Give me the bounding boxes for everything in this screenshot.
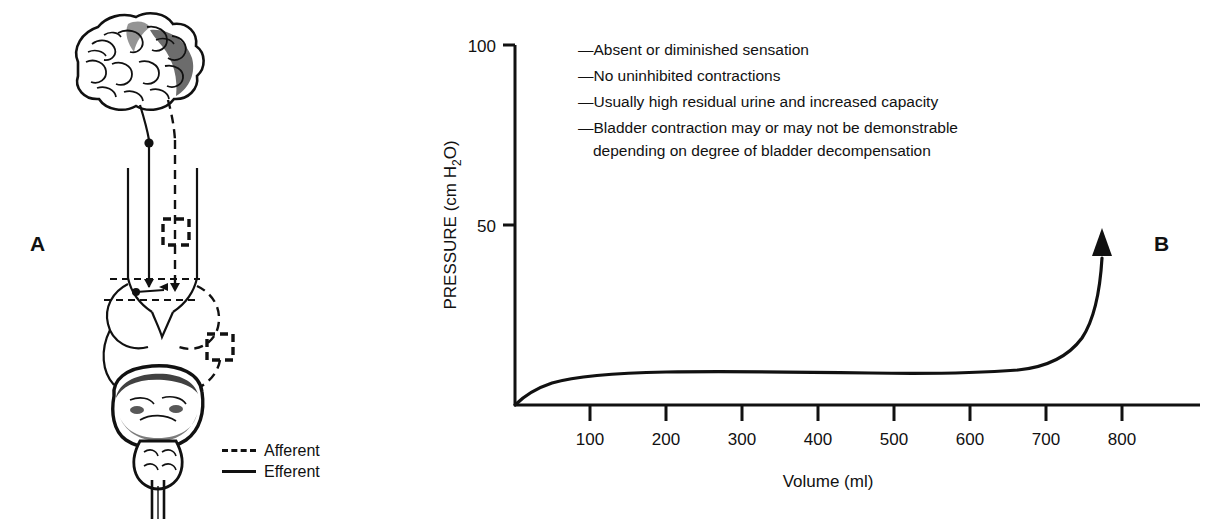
svg-text:—No uninhibited contractions: —No uninhibited contractions — [578, 67, 781, 84]
annotation-bullet-1: — — [578, 67, 594, 84]
curve-arrowhead — [1092, 228, 1112, 256]
figure-container: A Afferent Efferent 100 50 — [0, 0, 1219, 521]
x-tick-label-300: 300 — [728, 430, 756, 449]
x-tick-label-100: 100 — [576, 430, 604, 449]
svg-text:—Usually high residual urine a: —Usually high residual urine and increas… — [578, 93, 938, 110]
svg-text:—Absent or diminished sensatio: —Absent or diminished sensation — [578, 41, 809, 58]
legend-label-efferent: Efferent — [264, 461, 320, 482]
annotation-text-1: No uninhibited contractions — [594, 67, 781, 84]
legend: Afferent Efferent — [222, 440, 320, 482]
bladder-icon — [113, 366, 203, 519]
y-ticks — [503, 45, 515, 225]
annotation-bullet-3: — — [578, 119, 594, 136]
x-tick-label-800: 800 — [1108, 430, 1136, 449]
afferent-pathway-brain — [168, 100, 175, 290]
efferent-line-key — [222, 470, 256, 473]
legend-label-afferent: Afferent — [264, 440, 320, 461]
panel-b: 100 50 100 200 300 400 500 600 700 800 — [430, 0, 1219, 521]
panel-b-label: B — [1154, 232, 1170, 256]
y-axis-title: PRESSURE (cm H2O) — [441, 140, 464, 309]
efferent-pathway-brain — [140, 105, 154, 287]
panel-a-label: A — [30, 232, 46, 256]
svg-text:PRESSURE (cm H2O): PRESSURE (cm H2O) — [441, 140, 464, 309]
annotation-text-4: depending on degree of bladder decompens… — [593, 142, 931, 159]
spinal-cord — [107, 168, 219, 349]
svg-text:—Bladder contraction may or ma: —Bladder contraction may or may not be d… — [578, 119, 958, 136]
y-axis-title-main: PRESSURE (cm H — [441, 166, 460, 310]
annotation-text-2: Usually high residual urine and increase… — [594, 93, 939, 110]
cystometrogram-curve — [515, 228, 1112, 405]
annotation-text-0: Absent or diminished sensation — [594, 41, 809, 58]
y-tick-label-50: 50 — [477, 217, 496, 236]
annotation-bullet-2: — — [578, 93, 594, 110]
anatomy-diagram — [0, 0, 430, 521]
x-ticks — [590, 405, 1122, 421]
x-tick-label-600: 600 — [956, 430, 984, 449]
x-tick-label-700: 700 — [1032, 430, 1060, 449]
legend-item-afferent: Afferent — [222, 440, 320, 461]
y-tick-label-100: 100 — [468, 37, 496, 56]
efferent-pathway-bladder — [104, 330, 114, 385]
x-tick-label-200: 200 — [652, 430, 680, 449]
panel-a: A Afferent Efferent — [0, 0, 430, 521]
x-axis-title: Volume (ml) — [783, 472, 874, 491]
annotation-text-3: Bladder contraction may or may not be de… — [594, 119, 958, 136]
brain-icon — [76, 13, 203, 110]
y-axis-title-tail: O) — [441, 140, 460, 159]
x-tick-label-400: 400 — [804, 430, 832, 449]
annotation-bullet-0: — — [578, 41, 594, 58]
cystometrogram-chart: 100 50 100 200 300 400 500 600 700 800 — [430, 0, 1219, 521]
x-tick-label-500: 500 — [880, 430, 908, 449]
afferent-line-key — [222, 449, 256, 452]
annotation-list: —Absent or diminished sensation —No unin… — [578, 41, 958, 159]
legend-item-efferent: Efferent — [222, 461, 320, 482]
lesion-marker-lower — [207, 334, 233, 360]
